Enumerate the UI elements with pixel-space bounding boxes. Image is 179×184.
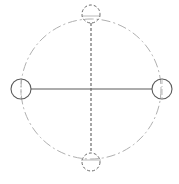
circle-diagram — [0, 0, 179, 184]
